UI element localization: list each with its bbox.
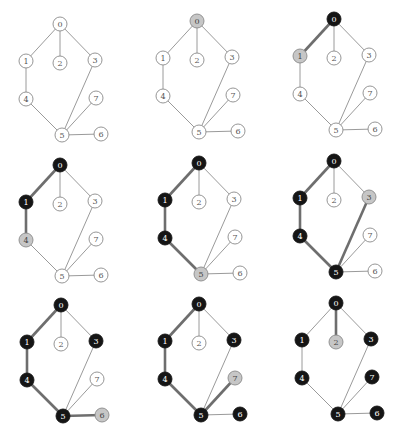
- node-label: 1: [297, 52, 302, 61]
- edge-0-3: [334, 161, 369, 197]
- node-1-visited: 1: [158, 334, 172, 348]
- node-3-frontier: 3: [362, 190, 376, 204]
- node-7-unvisited: 7: [90, 372, 104, 386]
- node-label: 2: [196, 198, 201, 207]
- node-label: 2: [57, 200, 62, 209]
- node-4-frontier: 4: [19, 233, 33, 247]
- node-7-frontier: 7: [228, 371, 242, 385]
- node-6-unvisited: 6: [368, 264, 382, 278]
- node-label: 6: [237, 269, 242, 278]
- node-label: 1: [160, 54, 165, 63]
- node-5-unvisited: 5: [192, 125, 206, 139]
- edge-0-1: [26, 24, 60, 61]
- node-3-unvisited: 3: [362, 48, 376, 62]
- node-label: 1: [297, 194, 302, 203]
- node-label: 6: [372, 125, 377, 134]
- node-label: 6: [99, 411, 104, 420]
- node-label: 2: [331, 196, 336, 205]
- node-7-unvisited: 7: [228, 230, 242, 244]
- edge-5-7: [62, 239, 96, 276]
- node-label: 4: [297, 232, 302, 241]
- node-4-visited: 4: [158, 231, 172, 245]
- node-3-unvisited: 3: [225, 50, 239, 64]
- node-label: 4: [23, 95, 28, 104]
- edge-4-5: [26, 240, 62, 276]
- node-label: 4: [160, 92, 165, 101]
- node-label: 3: [231, 195, 236, 204]
- node-label: 4: [297, 90, 302, 99]
- edge-5-7: [336, 235, 370, 272]
- node-label: 0: [331, 157, 336, 166]
- node-label: 5: [198, 411, 203, 420]
- edge-5-7: [338, 377, 372, 414]
- node-7-unvisited: 7: [89, 91, 103, 105]
- edge-0-3: [61, 305, 96, 341]
- node-label: 6: [237, 410, 242, 419]
- node-label: 1: [23, 57, 28, 66]
- node-label: 2: [196, 339, 201, 348]
- edge-0-3: [334, 19, 369, 55]
- graph-panel-step-9: 01234567: [295, 296, 384, 421]
- node-2-unvisited: 2: [54, 337, 68, 351]
- node-label: 5: [198, 270, 203, 279]
- graph-panel-step-7: 01234567: [20, 298, 109, 423]
- node-label: 7: [230, 91, 235, 100]
- node-4-unvisited: 4: [156, 89, 170, 103]
- node-0-visited: 0: [53, 158, 67, 172]
- node-label: 7: [93, 235, 98, 244]
- edge-5-7: [62, 98, 96, 135]
- graph-panel-step-2: 01234567: [156, 14, 245, 139]
- node-label: 0: [58, 301, 63, 310]
- node-label: 4: [162, 375, 167, 384]
- node-6-unvisited: 6: [368, 122, 382, 136]
- node-3-visited: 3: [364, 332, 378, 346]
- graph-panel-step-5: 01234567: [158, 156, 247, 281]
- node-label: 6: [372, 267, 377, 276]
- node-label: 7: [94, 375, 99, 384]
- node-label: 1: [162, 337, 167, 346]
- node-label: 7: [93, 94, 98, 103]
- edge-5-7: [336, 93, 370, 130]
- node-7-unvisited: 7: [226, 88, 240, 102]
- node-label: 3: [366, 193, 371, 202]
- node-label: 5: [196, 128, 201, 137]
- node-2-unvisited: 2: [53, 56, 67, 70]
- node-3-unvisited: 3: [88, 194, 102, 208]
- node-label: 4: [162, 234, 167, 243]
- node-6-unvisited: 6: [233, 266, 247, 280]
- node-0-frontier: 0: [190, 14, 204, 28]
- graph-panel-step-4: 01234567: [19, 158, 108, 283]
- node-label: 5: [60, 412, 65, 421]
- node-6-visited: 6: [233, 407, 247, 421]
- edge-4-5: [163, 96, 199, 132]
- node-label: 1: [299, 336, 304, 345]
- edge-0-1-traversed: [26, 165, 60, 202]
- node-5-visited: 5: [329, 265, 343, 279]
- node-2-unvisited: 2: [192, 195, 206, 209]
- node-label: 0: [194, 17, 199, 26]
- node-1-frontier: 1: [293, 49, 307, 63]
- node-label: 6: [235, 127, 240, 136]
- edge-0-1-traversed: [165, 304, 199, 341]
- node-5-visited: 5: [56, 409, 70, 423]
- node-label: 0: [196, 300, 201, 309]
- node-0-visited: 0: [192, 156, 206, 170]
- node-6-unvisited: 6: [94, 268, 108, 282]
- edge-0-1: [163, 21, 197, 58]
- node-4-visited: 4: [20, 373, 34, 387]
- node-6-frontier: 6: [95, 408, 109, 422]
- dfs-diagram: 0123456701234567012345670123456701234567…: [0, 0, 397, 436]
- node-0-visited: 0: [327, 12, 341, 26]
- node-4-unvisited: 4: [293, 87, 307, 101]
- node-2-unvisited: 2: [53, 197, 67, 211]
- node-label: 7: [369, 373, 374, 382]
- edge-5-7: [201, 237, 235, 274]
- edge-0-3: [336, 303, 371, 339]
- node-label: 6: [374, 409, 379, 418]
- node-label: 4: [23, 236, 28, 245]
- node-label: 7: [232, 374, 237, 383]
- node-5-unvisited: 5: [55, 128, 69, 142]
- node-5-visited: 5: [194, 408, 208, 422]
- node-label: 4: [24, 376, 29, 385]
- node-label: 3: [231, 336, 236, 345]
